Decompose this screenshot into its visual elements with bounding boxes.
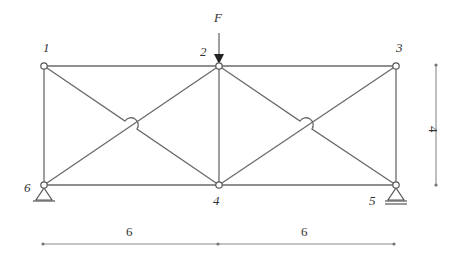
node-2 bbox=[216, 63, 222, 69]
node-5 bbox=[393, 182, 399, 188]
dimension-label-right: 6 bbox=[301, 224, 308, 239]
pin-support-node-6 bbox=[33, 188, 55, 201]
node-6 bbox=[41, 182, 47, 188]
dimension-label-left: 6 bbox=[126, 224, 133, 239]
node-label-5: 5 bbox=[369, 193, 376, 208]
truss-diagram: F 1 2 3 4 5 6 6 6 4 bbox=[0, 0, 467, 260]
node-label-3: 3 bbox=[395, 40, 403, 55]
node-4 bbox=[216, 182, 222, 188]
dimension-label-vertical: 4 bbox=[426, 126, 441, 133]
node-label-2: 2 bbox=[200, 44, 207, 59]
node-3 bbox=[393, 63, 399, 69]
roller-support-node-5 bbox=[385, 188, 407, 204]
node-label-4: 4 bbox=[213, 193, 220, 208]
node-label-6: 6 bbox=[24, 180, 31, 195]
load-label: F bbox=[213, 10, 223, 25]
node-1 bbox=[41, 63, 47, 69]
node-label-1: 1 bbox=[43, 40, 50, 55]
